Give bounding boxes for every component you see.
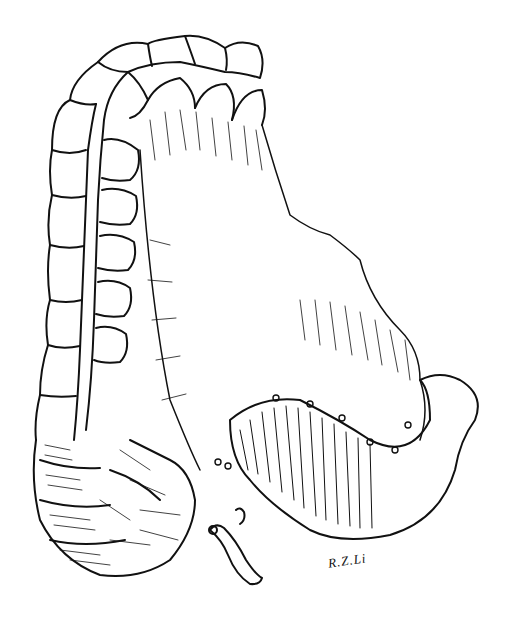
bowel-loop [230, 375, 478, 539]
mesentery [140, 125, 425, 470]
ascending-colon-outer [36, 62, 99, 440]
appendix [209, 508, 262, 584]
inner-haustra [94, 72, 265, 363]
colon-illustration [0, 0, 511, 622]
cecum [34, 440, 195, 576]
transverse-colon-outer [98, 36, 263, 78]
taenia [74, 104, 96, 440]
